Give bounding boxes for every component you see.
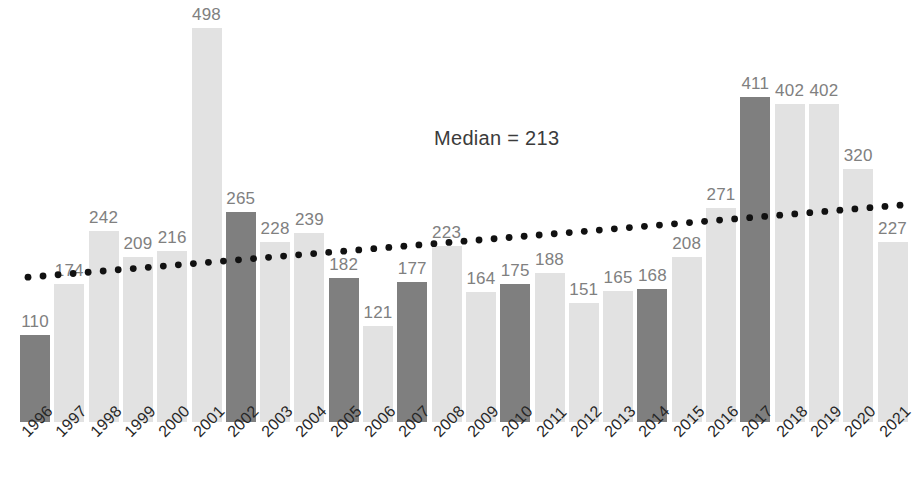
bar-group-2006: 121 bbox=[363, 0, 393, 422]
bar-group-1999: 209 bbox=[123, 0, 153, 422]
bar-group-2014: 168 bbox=[637, 0, 667, 422]
bar-group-2020: 320 bbox=[843, 0, 873, 422]
bar-value-label-2015: 208 bbox=[672, 234, 701, 254]
bar-2003[interactable] bbox=[260, 242, 290, 422]
bar-value-label-2021: 227 bbox=[878, 219, 907, 239]
bar-value-label-2006: 121 bbox=[364, 303, 393, 323]
bar-group-2013: 165 bbox=[603, 0, 633, 422]
bar-group-2011: 188 bbox=[535, 0, 565, 422]
bar-value-label-2003: 228 bbox=[261, 219, 290, 239]
bar-value-label-2009: 164 bbox=[466, 269, 495, 289]
plot-area: 1101742422092164982652282391821211772231… bbox=[0, 0, 921, 422]
bar-value-label-2014: 168 bbox=[638, 266, 667, 286]
bar-value-label-2013: 165 bbox=[604, 268, 633, 288]
bar-group-2007: 177 bbox=[397, 0, 427, 422]
bar-value-label-2018: 402 bbox=[775, 81, 804, 101]
bar-group-2015: 208 bbox=[672, 0, 702, 422]
bar-2010[interactable] bbox=[500, 284, 530, 422]
bar-value-label-2017: 411 bbox=[741, 74, 769, 94]
bar-value-label-2001: 498 bbox=[192, 5, 221, 25]
bar-group-2012: 151 bbox=[569, 0, 599, 422]
bar-2018[interactable] bbox=[775, 104, 805, 422]
bar-value-label-2019: 402 bbox=[809, 81, 838, 101]
bar-value-label-1997: 174 bbox=[55, 261, 84, 281]
bar-2000[interactable] bbox=[157, 251, 187, 422]
bar-2017[interactable] bbox=[740, 97, 770, 422]
bar-2002[interactable] bbox=[226, 212, 256, 422]
bar-group-2010: 175 bbox=[500, 0, 530, 422]
bar-group-1997: 174 bbox=[54, 0, 84, 422]
bar-2007[interactable] bbox=[397, 282, 427, 422]
bar-value-label-1998: 242 bbox=[89, 208, 118, 228]
bar-2008[interactable] bbox=[432, 246, 462, 422]
bar-value-label-2012: 151 bbox=[569, 280, 598, 300]
bar-group-2000: 216 bbox=[157, 0, 187, 422]
bar-value-label-1999: 209 bbox=[123, 234, 152, 254]
bar-value-label-2011: 188 bbox=[535, 250, 564, 270]
bar-value-label-2010: 175 bbox=[501, 261, 530, 281]
bar-value-label-2016: 271 bbox=[707, 185, 736, 205]
bar-2005[interactable] bbox=[329, 278, 359, 422]
bar-group-2008: 223 bbox=[432, 0, 462, 422]
bar-value-label-2004: 239 bbox=[295, 210, 324, 230]
bar-value-label-2000: 216 bbox=[158, 228, 187, 248]
bar-value-label-2008: 223 bbox=[432, 223, 461, 243]
bar-group-1998: 242 bbox=[89, 0, 119, 422]
bar-value-label-2005: 182 bbox=[329, 255, 358, 275]
bar-2009[interactable] bbox=[466, 292, 496, 422]
bar-group-2017: 411 bbox=[740, 0, 770, 422]
bar-2016[interactable] bbox=[706, 208, 736, 422]
bar-value-label-2007: 177 bbox=[398, 259, 427, 279]
bar-2011[interactable] bbox=[535, 273, 565, 422]
bar-group-2009: 164 bbox=[466, 0, 496, 422]
bar-group-2002: 265 bbox=[226, 0, 256, 422]
bar-group-2018: 402 bbox=[775, 0, 805, 422]
bar-2015[interactable] bbox=[672, 257, 702, 422]
bar-group-2019: 402 bbox=[809, 0, 839, 422]
bar-group-2003: 228 bbox=[260, 0, 290, 422]
bar-group-2016: 271 bbox=[706, 0, 736, 422]
bar-2013[interactable] bbox=[603, 291, 633, 422]
bar-1999[interactable] bbox=[123, 257, 153, 422]
bar-group-2005: 182 bbox=[329, 0, 359, 422]
bar-group-2004: 239 bbox=[294, 0, 324, 422]
bar-group-2021: 227 bbox=[878, 0, 908, 422]
bar-group-1996: 110 bbox=[20, 0, 50, 422]
bar-value-label-1996: 110 bbox=[21, 312, 49, 332]
bar-value-label-2002: 265 bbox=[226, 189, 255, 209]
bar-2004[interactable] bbox=[294, 233, 324, 422]
bar-group-2001: 498 bbox=[192, 0, 222, 422]
bar-2019[interactable] bbox=[809, 104, 839, 422]
bar-value-label-2020: 320 bbox=[844, 146, 873, 166]
bar-2021[interactable] bbox=[878, 242, 908, 422]
bar-2020[interactable] bbox=[843, 169, 873, 422]
x-axis-tick-labels: 1996199719981999200020012002200320042005… bbox=[0, 422, 921, 481]
bar-chart: 1101742422092164982652282391821211772231… bbox=[0, 0, 921, 481]
bar-1998[interactable] bbox=[89, 231, 119, 422]
bar-2014[interactable] bbox=[637, 289, 667, 422]
bar-1997[interactable] bbox=[54, 284, 84, 422]
median-annotation: Median = 213 bbox=[434, 127, 559, 150]
bar-2001[interactable] bbox=[192, 28, 222, 422]
